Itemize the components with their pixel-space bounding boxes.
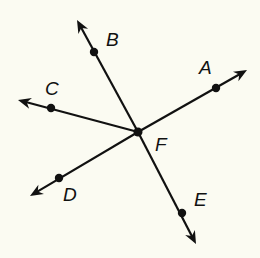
arrowhead-icon	[30, 185, 44, 196]
rays-drawing	[0, 0, 260, 258]
label-c: C	[45, 79, 59, 98]
ray-d	[37, 132, 138, 192]
label-d: D	[63, 185, 77, 204]
point-a	[212, 84, 220, 92]
point-e	[178, 209, 186, 217]
point-c	[47, 104, 55, 112]
point-b	[90, 48, 98, 56]
ray-c	[26, 102, 138, 132]
ray-a	[138, 74, 240, 132]
label-e: E	[194, 190, 207, 209]
point-f	[134, 128, 143, 137]
geometry-diagram: ABCDEF	[0, 0, 260, 258]
label-f: F	[155, 135, 167, 154]
label-b: B	[106, 30, 119, 49]
label-a: A	[199, 58, 212, 77]
point-d	[55, 174, 63, 182]
